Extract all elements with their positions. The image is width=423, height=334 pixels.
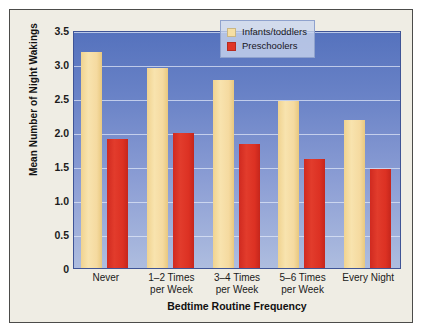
- legend-label: Infants/toddlers: [242, 27, 307, 37]
- bar-infants-toddlers: [344, 120, 365, 268]
- legend-item: Infants/toddlers: [227, 26, 307, 38]
- bar-infants-toddlers: [213, 80, 234, 268]
- bar-preschoolers: [370, 169, 391, 268]
- bar-infants-toddlers: [147, 68, 168, 268]
- y-tick-label: 3.5: [54, 26, 69, 37]
- bar-preschoolers: [107, 139, 128, 268]
- chart-card: 00.51.01.52.02.53.03.5 Mean Number of Ni…: [9, 9, 413, 323]
- x-axis-title: Bedtime Routine Frequency: [73, 300, 401, 312]
- y-axis-ticks: 00.51.01.52.02.53.03.5: [36, 31, 69, 269]
- y-tick-label: 3.0: [54, 60, 69, 71]
- y-tick-label: 1.5: [54, 162, 69, 173]
- bar-preschoolers: [173, 133, 194, 268]
- bar-infants-toddlers: [81, 52, 102, 268]
- chart-figure: 00.51.01.52.02.53.03.5 Mean Number of Ni…: [0, 0, 423, 334]
- y-tick-label: 0.5: [54, 230, 69, 241]
- legend-label: Preschoolers: [242, 41, 297, 51]
- bar-infants-toddlers: [278, 101, 299, 268]
- bar-preschoolers: [239, 144, 260, 268]
- gridline: [74, 66, 400, 67]
- x-tick-label: Every Night: [328, 272, 408, 284]
- y-axis-title: Mean Number of Night Wakings: [28, 15, 39, 185]
- y-tick-label: 1.0: [54, 196, 69, 207]
- plot-area: [73, 31, 401, 269]
- infants-swatch-icon: [227, 28, 236, 37]
- y-tick-label: 2.5: [54, 94, 69, 105]
- preschoolers-swatch-icon: [227, 42, 236, 51]
- gridline: [74, 100, 400, 101]
- legend-item: Preschoolers: [227, 40, 307, 52]
- bar-preschoolers: [304, 159, 325, 268]
- y-tick-label: 2.0: [54, 128, 69, 139]
- chart-legend: Infants/toddlersPreschoolers: [220, 20, 315, 58]
